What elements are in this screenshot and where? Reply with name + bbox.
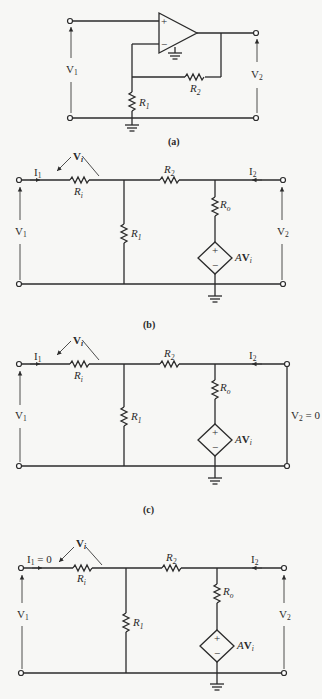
ground-icon [210,684,224,690]
svg-text:+: + [212,426,218,438]
resistor-ri [70,177,89,183]
i1-label: I1 [34,166,42,180]
ground-icon [125,118,139,131]
svg-text:I1: I1 [34,350,42,364]
svg-text:AVi: AVi [236,639,254,653]
v2-label: V2 [277,225,289,239]
r2-label: R2 [163,163,175,178]
svg-text:Ri: Ri [76,572,86,587]
caption-b: (b) [143,319,155,331]
opamp-plus-label: + [161,15,167,27]
svg-text:+: + [212,244,218,256]
ro-label: Ro [219,198,231,213]
v2-label: V2 [251,68,263,82]
ground-icon [208,478,222,484]
svg-text:V1: V1 [15,409,27,423]
resistor-r2 [185,74,204,80]
svg-text:R1: R1 [132,616,143,631]
svg-text:Vi: Vi [76,537,87,551]
ground-icon [208,296,222,302]
resistor-r2 [160,177,179,183]
resistor-ro [212,197,218,216]
panel-a-opamp-circuit: + − R2 R1 [66,13,263,148]
svg-text:Ro: Ro [222,585,234,600]
caption-a: (a) [168,136,180,148]
svg-text:−: − [214,647,220,659]
r1-label: R1 [138,96,149,111]
resistor-r1 [121,224,127,243]
panel-c-shorted-output: Vi I1 Ri R2 I2 R1 + − Ro AVi V1 V2 = 0 (… [15,334,320,516]
ri-label: Ri [73,185,83,200]
v1-label: V1 [66,63,78,77]
v1-label: V1 [15,225,27,239]
terminal-in-bottom [68,116,73,121]
svg-text:R2: R2 [163,347,175,362]
terminal-out-top [254,31,259,36]
svg-text:I2: I2 [251,553,259,567]
opamp-minus-label: − [161,38,167,50]
svg-text:−: − [212,441,218,453]
r1-label: R1 [130,227,141,242]
svg-text:Ri: Ri [73,369,83,384]
ground-icon [168,47,182,59]
i1-zero-label: I1 = 0 [27,553,52,567]
vi-label: Vi [73,150,84,164]
panel-d-open-input: Vi I1 = 0 Ri R2 I2 R1 + − Ro AVi V1 V2 [17,537,291,690]
panel-b-equivalent-circuit: Vi I1 Ri R2 I2 R1 + − Ro AVi V1 [15,150,289,331]
circuit-figure: + − R2 R1 [0,0,322,699]
r2-label: R2 [189,82,201,97]
resistor-r1 [129,92,135,111]
svg-text:I2: I2 [249,349,257,363]
terminal-out-bottom [254,116,259,121]
svg-text:V2: V2 [279,608,291,622]
source-label: AVi [234,251,252,265]
i2-label: I2 [249,165,257,179]
terminal-in-top [68,19,73,24]
v2-zero-label: V2 = 0 [291,409,320,423]
svg-text:Ro: Ro [219,381,231,396]
svg-text:+: + [214,632,220,644]
svg-text:V1: V1 [17,608,29,622]
svg-text:AVi: AVi [234,433,252,447]
svg-text:Vi: Vi [73,334,84,348]
caption-c: (c) [143,504,154,516]
svg-text:R1: R1 [130,410,141,425]
svg-text:−: − [212,259,218,271]
svg-text:R2: R2 [165,551,177,566]
